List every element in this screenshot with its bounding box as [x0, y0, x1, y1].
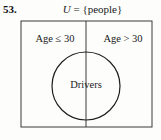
right-region-label: Age > 30 [95, 33, 151, 45]
drivers-circle-label: Drivers [56, 79, 116, 91]
venn-diagram-figure: 53. U = {people} Age ≤ 30 Age > 30 Drive… [0, 0, 161, 140]
left-region-label: Age ≤ 30 [27, 33, 83, 45]
venn-diagram-graphic [0, 0, 161, 140]
